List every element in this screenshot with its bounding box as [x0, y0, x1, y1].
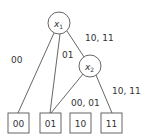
leaf-00: 00 [8, 113, 29, 133]
edge-x1-leaf-00 [18, 33, 54, 113]
leaf-10-label: 10 [75, 119, 87, 129]
node-x1: x1 [48, 12, 70, 34]
edge-x1-leaf-01 [50, 34, 60, 113]
diagram-svg: x1 x2 00 01 10, 11 00, 01 10, 11 00 01 1… [0, 0, 145, 138]
leaf-01-label: 01 [45, 119, 56, 129]
leaf-10: 10 [70, 113, 91, 133]
leaf-11: 11 [101, 113, 122, 133]
leaf-11-label: 11 [106, 119, 117, 129]
edge-label-10-11-top: 10, 11 [85, 33, 114, 43]
node-x2: x2 [79, 55, 101, 77]
leaf-01: 01 [40, 113, 61, 133]
decision-tree-diagram: x1 x2 00 01 10, 11 00, 01 10, 11 00 01 1… [0, 0, 145, 138]
leaf-00-label: 00 [13, 119, 25, 129]
edge-label-00: 00 [11, 55, 23, 65]
edge-label-01: 01 [62, 50, 73, 60]
edge-label-00-01: 00, 01 [71, 98, 100, 108]
edge-label-10-11-right: 10, 11 [112, 86, 141, 96]
